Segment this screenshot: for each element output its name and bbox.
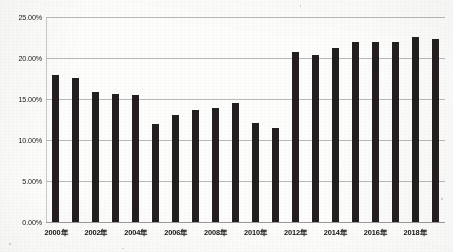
gridline [46,181,445,182]
bar [412,37,419,222]
bar [152,124,159,222]
bar [52,75,59,222]
scan-speck [300,5,301,7]
bar [352,42,359,222]
bar [272,128,279,222]
bar [392,42,399,222]
bar [132,95,139,222]
plot-area [46,17,445,222]
axis-baseline [46,222,445,223]
bar [232,103,239,222]
y-axis-tick-label: 25.00% [0,13,42,22]
gridline [46,99,445,100]
gridline [46,140,445,141]
bar [212,108,219,222]
x-axis-tick-labels: 2000年2002年2004年2006年2008年2010年2012年2014年… [46,226,445,244]
x-axis-tick-label: 2006年 [164,226,187,237]
gridline [46,58,445,59]
y-axis-tick-label: 5.00% [0,177,42,186]
bar [372,42,379,222]
bar [252,123,259,222]
gridline [46,17,445,18]
bar [292,52,299,222]
bar [192,110,199,222]
x-axis-tick-label: 2000年 [44,226,67,237]
bar [72,78,79,222]
bar [92,92,99,222]
y-axis-tick-label: 0.00% [0,218,42,227]
y-axis-tick-labels: 0.00%5.00%10.00%15.00%20.00%25.00% [0,0,44,252]
bar [172,115,179,222]
x-axis-tick-label: 2016年 [364,226,387,237]
bar-chart: 0.00%5.00%10.00%15.00%20.00%25.00% 2000年… [0,0,453,252]
x-axis-tick-label: 2018年 [404,226,427,237]
x-axis-tick-label: 2004年 [124,226,147,237]
bar [332,48,339,222]
y-axis-tick-label: 20.00% [0,54,42,63]
y-axis-tick-label: 10.00% [0,136,42,145]
x-axis-tick-label: 2014年 [324,226,347,237]
x-axis-tick-label: 2010年 [244,226,267,237]
scan-speck [122,248,124,249]
bar [112,94,119,222]
y-axis-tick-label: 15.00% [0,95,42,104]
x-axis-tick-label: 2012年 [284,226,307,237]
bar [312,55,319,222]
bar [432,39,439,222]
x-axis-tick-label: 2002年 [84,226,107,237]
x-axis-tick-label: 2008年 [204,226,227,237]
